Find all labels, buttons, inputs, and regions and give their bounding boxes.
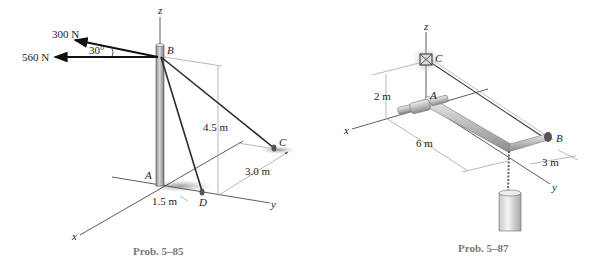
pole-top xyxy=(156,44,164,47)
diagram-canvas: 300 N 560 N 30° z B C A D x y 4.5 m 3.0 … xyxy=(0,0,600,269)
force-300n-label: 300 N xyxy=(52,28,79,40)
z-axis-label-r: z xyxy=(423,20,429,32)
bearing-collar xyxy=(409,99,431,115)
caption-prob-5-87: Prob. 5–87 xyxy=(458,242,509,254)
force-560n-label: 560 N xyxy=(22,51,49,63)
dim-height-top-ext xyxy=(164,57,222,66)
point-c-label-r: C xyxy=(435,52,443,64)
dim-6m-label: 6 m xyxy=(416,137,433,149)
pole xyxy=(156,45,164,186)
dim-3m-label: 3 m xyxy=(542,156,559,168)
end-b xyxy=(544,132,552,142)
weight-top xyxy=(499,190,521,196)
weight-cylinder xyxy=(499,193,521,231)
dim-height-label: 4.5 m xyxy=(203,121,229,133)
z-axis-label: z xyxy=(157,4,163,16)
point-a-label: A xyxy=(144,169,152,181)
caption-prob-5-85: Prob. 5–85 xyxy=(133,245,184,257)
point-b-label-r: B xyxy=(556,132,563,144)
dim-2m-label: 2 m xyxy=(374,90,391,102)
pipe-arm xyxy=(508,133,550,152)
x-axis-label-r: x xyxy=(343,124,349,136)
dim-ad-label: 1.5 m xyxy=(152,195,178,207)
point-b-label: B xyxy=(167,44,174,56)
cable-bc xyxy=(161,57,274,148)
anchor-c xyxy=(272,145,277,152)
force-300n-arrow xyxy=(75,40,158,57)
point-d-label: D xyxy=(198,196,207,208)
figure-prob-5-87: z C A B x y 2 m 6 m 3 m Prob. 5–87 xyxy=(343,20,578,254)
point-a-label-r: A xyxy=(429,89,437,101)
angle-arc xyxy=(112,48,113,57)
dim-1-5m-line xyxy=(180,196,188,201)
anchor-d xyxy=(200,189,205,196)
figure-prob-5-85: 300 N 560 N 30° z B C A D x y 4.5 m 3.0 … xyxy=(22,4,296,257)
y-axis-label-r: y xyxy=(551,181,557,193)
point-c-label: C xyxy=(279,136,287,148)
angle-label: 30° xyxy=(89,44,104,56)
dim-ac-label: 3.0 m xyxy=(245,165,271,177)
y-axis-label: y xyxy=(270,198,276,210)
dim-6m-end-ext xyxy=(462,161,508,172)
x-axis-label: x xyxy=(71,230,77,242)
cable-bd xyxy=(161,57,202,191)
